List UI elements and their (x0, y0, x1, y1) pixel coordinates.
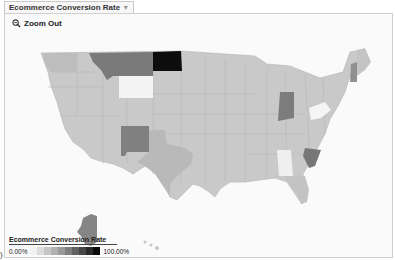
legend-swatch (86, 247, 93, 255)
legend-swatch (30, 247, 37, 255)
legend-swatch (79, 247, 86, 255)
legend-swatch (37, 247, 44, 255)
dropdown-arrow-icon: ▼ (122, 4, 129, 11)
legend-swatch (58, 247, 65, 255)
legend-swatch (72, 247, 79, 255)
legend-title: Ecommerce Conversion Rate (9, 236, 117, 245)
tab-bar: Ecommerce Conversion Rate▼ (0, 0, 395, 14)
state-alabama (277, 150, 293, 176)
legend-swatch (44, 247, 51, 255)
state-new-mexico (121, 126, 149, 156)
legend-max-label: 100.00% (103, 248, 129, 255)
legend-swatch (51, 247, 58, 255)
us-map[interactable] (5, 14, 392, 257)
state-north-dakota (153, 51, 182, 71)
us-mainland (41, 50, 365, 204)
legend-min-label: 0.00% (9, 248, 27, 255)
state-new-hampshire (350, 62, 357, 82)
map-frame: Zoom Out (4, 13, 393, 258)
state-wyoming (119, 76, 153, 98)
legend-swatch (65, 247, 72, 255)
state-indiana (278, 92, 294, 121)
metric-label: Ecommerce Conversion Rate (9, 3, 120, 12)
corner-mark: ) (0, 250, 3, 259)
state-hawaii (144, 241, 160, 251)
legend: Ecommerce Conversion Rate 0.00% 100.00% (9, 236, 127, 256)
legend-gradient (30, 247, 100, 255)
legend-swatch (93, 247, 100, 255)
